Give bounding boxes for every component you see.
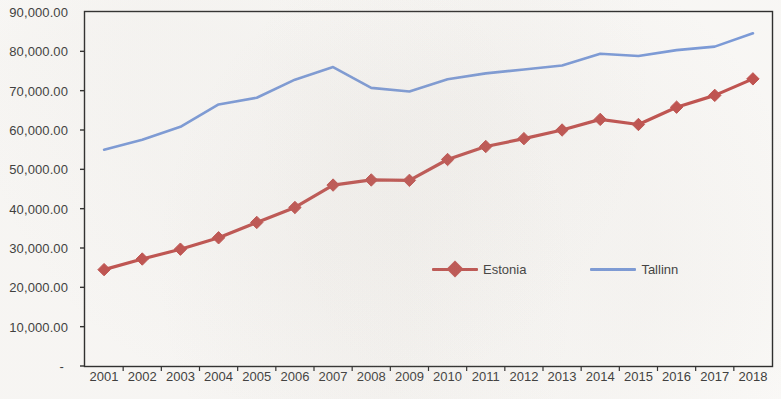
series-line-estonia [104, 79, 753, 270]
x-axis: 2001200220032004200520062007200820092010… [84, 370, 774, 394]
x-axis-tick-label: 2007 [319, 370, 348, 383]
data-point-marker [670, 101, 682, 113]
data-point-marker [518, 132, 530, 144]
x-axis-tick-label: 2014 [586, 370, 615, 383]
x-axis-tick-label: 2015 [624, 370, 653, 383]
data-point-marker [556, 124, 568, 136]
x-axis-tick-label: 2017 [700, 370, 729, 383]
x-axis-tick-label: 2018 [738, 370, 767, 383]
legend-label-tallinn: Tallinn [641, 263, 678, 276]
series-layer [98, 33, 759, 276]
x-axis-tick-label: 2005 [242, 370, 271, 383]
data-point-marker [251, 216, 263, 228]
x-axis-tick-label: 2004 [204, 370, 233, 383]
x-axis-tick-label: 2003 [166, 370, 195, 383]
data-point-marker [365, 174, 377, 186]
legend-swatch-tallinn [590, 262, 636, 276]
line-chart: -10,000.0020,000.0030,000.0040,000.0050,… [0, 0, 781, 399]
data-point-marker [136, 253, 148, 265]
legend-item-tallinn[interactable]: Tallinn [590, 262, 678, 276]
x-axis-tick-label: 2013 [548, 370, 577, 383]
series-line-tallinn [104, 33, 753, 149]
legend-swatch-estonia [432, 262, 478, 276]
data-point-marker [709, 89, 721, 101]
x-axis-tick-label: 2016 [662, 370, 691, 383]
x-axis-tick-label: 2011 [472, 370, 500, 383]
x-axis-tick-label: 2006 [280, 370, 309, 383]
data-point-marker [594, 113, 606, 125]
x-axis-tick-label: 2001 [90, 370, 119, 383]
data-point-marker [747, 73, 759, 85]
data-point-marker [212, 232, 224, 244]
data-point-marker [174, 243, 186, 255]
x-axis-tick-label: 2002 [128, 370, 157, 383]
data-point-marker [632, 118, 644, 130]
plot-area [0, 0, 781, 399]
x-axis-tick-label: 2010 [433, 370, 462, 383]
data-point-marker [441, 153, 453, 165]
x-axis-tick-label: 2012 [509, 370, 538, 383]
legend-item-estonia[interactable]: Estonia [432, 262, 526, 276]
x-axis-tick-label: 2008 [357, 370, 386, 383]
legend-label-estonia: Estonia [483, 263, 526, 276]
diamond-marker-icon [447, 261, 464, 278]
data-point-marker [98, 263, 110, 275]
chart-legend: Estonia Tallinn [432, 262, 678, 276]
x-axis-tick-label: 2009 [395, 370, 424, 383]
plot-border [85, 12, 773, 367]
data-point-marker [403, 174, 415, 186]
data-point-marker [480, 140, 492, 152]
